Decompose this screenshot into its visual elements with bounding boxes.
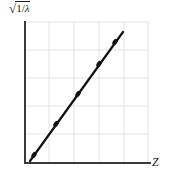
grid-vertical	[49, 22, 148, 163]
series-sqrt-inv-lambda	[30, 32, 123, 161]
figure-container: √1/λ Z	[0, 0, 169, 185]
plot-area	[0, 0, 169, 185]
grid-horizontal	[24, 22, 148, 134]
